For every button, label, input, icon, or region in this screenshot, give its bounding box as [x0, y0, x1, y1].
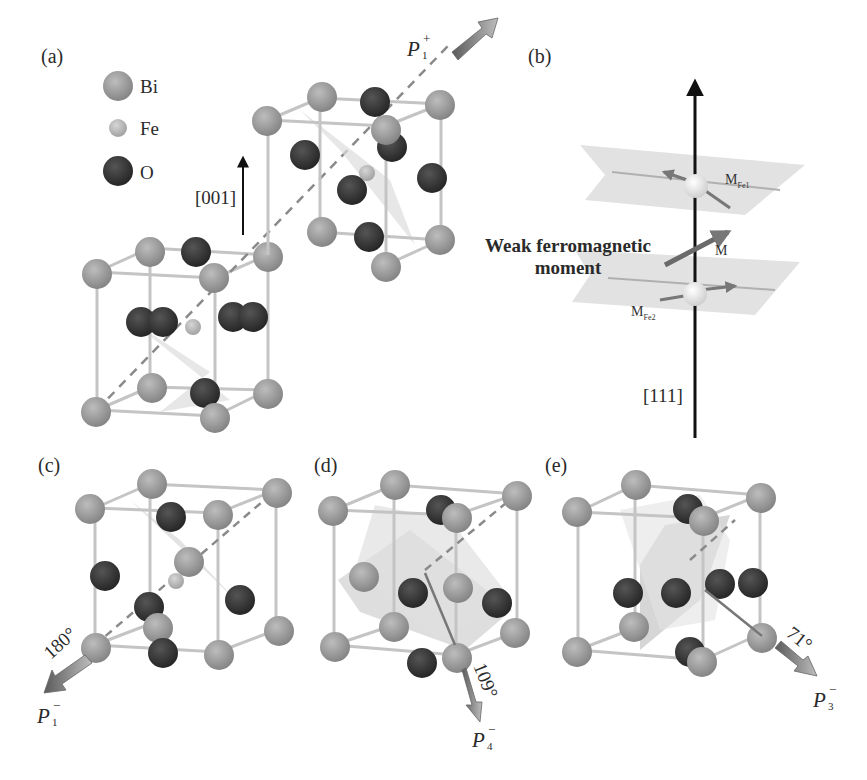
bi-legend-atom-icon: [103, 71, 133, 101]
p1-plus-sub: 1: [422, 49, 428, 61]
p1-plus-arrow-icon: [452, 18, 498, 60]
panel-c-cell: [44, 469, 294, 693]
p4-minus-base: P: [472, 728, 485, 752]
p1-minus-base: P: [37, 704, 50, 728]
p1-minus-sup: −: [53, 698, 60, 714]
panel-d-label: (d): [314, 455, 337, 475]
weak-moment-label: Weak ferromagnetic moment: [468, 235, 668, 279]
p4-minus-label: P − 4: [472, 728, 485, 753]
p3-minus-sub: 3: [828, 700, 834, 712]
p3-minus-label: P − 3: [813, 688, 826, 713]
p1-minus-label: P − 1: [37, 704, 50, 729]
fe-legend-atom-icon: [109, 119, 127, 137]
m-fe2-base: M: [631, 304, 643, 319]
panel-e-cell: [562, 470, 817, 677]
panel-b-label: (b): [528, 46, 551, 66]
p3-minus-base: P: [813, 688, 826, 712]
m-fe1-label: MFe1: [725, 172, 749, 188]
o-legend-atom-icon: [103, 156, 133, 186]
fe1-atom-icon: [684, 174, 708, 198]
legend-o-label: O: [140, 163, 154, 182]
panel-e-label: (e): [545, 455, 567, 475]
axis-111-label: [111]: [643, 386, 683, 405]
panel-a-lower-cell: [97, 248, 268, 416]
figure-canvas: [0, 0, 867, 780]
panel-c-label: (c): [38, 455, 60, 475]
m-total-label: M: [715, 243, 727, 259]
legend-bi-label: Bi: [140, 77, 158, 96]
m-fe2-sub: Fe2: [643, 313, 655, 322]
p3-minus-sup: −: [829, 682, 836, 698]
p4-minus-sub: 4: [487, 740, 493, 752]
p1-plus-label: P + 1: [407, 37, 420, 62]
legend-fe-label: Fe: [140, 119, 159, 138]
panel-a-label: (a): [41, 46, 63, 66]
p1-plus-sup: +: [423, 31, 430, 47]
p4-minus-sup: −: [488, 722, 495, 738]
weak-moment-line2: moment: [468, 257, 668, 279]
p1-plus-base: P: [407, 37, 420, 61]
direction-001-label: [001]: [195, 188, 236, 207]
m-fe2-label: MFe2: [631, 304, 655, 320]
weak-moment-line1: Weak ferromagnetic: [468, 235, 668, 257]
p1-minus-sub: 1: [52, 716, 58, 728]
m-fe1-sub: Fe1: [737, 181, 749, 190]
fe2-atom-icon: [683, 282, 707, 306]
m-fe1-base: M: [725, 172, 737, 187]
panel-d-cell: [318, 470, 532, 722]
legend: [103, 71, 133, 186]
